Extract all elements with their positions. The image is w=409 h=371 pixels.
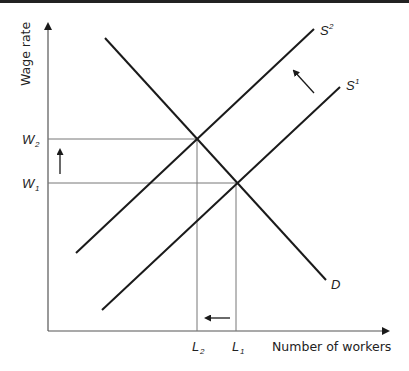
w2-label: W 2	[22, 132, 40, 149]
labour-market-diagram: Wage rate Number of workers W 2 W 1 L 2 …	[0, 0, 409, 371]
svg-text:1: 1	[35, 184, 39, 193]
svg-text:2: 2	[34, 140, 40, 149]
svg-text:L: L	[232, 339, 239, 354]
svg-text:2: 2	[199, 347, 205, 356]
svg-text:W: W	[22, 176, 36, 191]
s1-label: S 1	[346, 77, 359, 93]
l2-label: L 2	[192, 339, 205, 356]
w1-label: W 1	[22, 176, 39, 193]
supply-curve-s1	[102, 87, 340, 310]
svg-text:1: 1	[240, 347, 244, 356]
guide-lines	[48, 139, 236, 331]
svg-text:2: 2	[328, 22, 334, 31]
svg-text:S: S	[320, 23, 329, 38]
x-axis-label: Number of workers	[272, 339, 391, 354]
demand-curve	[105, 38, 326, 280]
supply-curve-s2	[76, 29, 314, 253]
l1-label: L 1	[232, 339, 244, 356]
s2-label: S 2	[320, 22, 334, 38]
d-label: D	[331, 277, 340, 292]
svg-text:1: 1	[355, 77, 359, 86]
svg-text:S: S	[346, 78, 355, 93]
y-axis-label: Wage rate	[18, 21, 33, 86]
svg-text:L: L	[192, 339, 199, 354]
supply-shift-arrow-icon	[294, 71, 314, 93]
svg-text:W: W	[22, 132, 36, 147]
